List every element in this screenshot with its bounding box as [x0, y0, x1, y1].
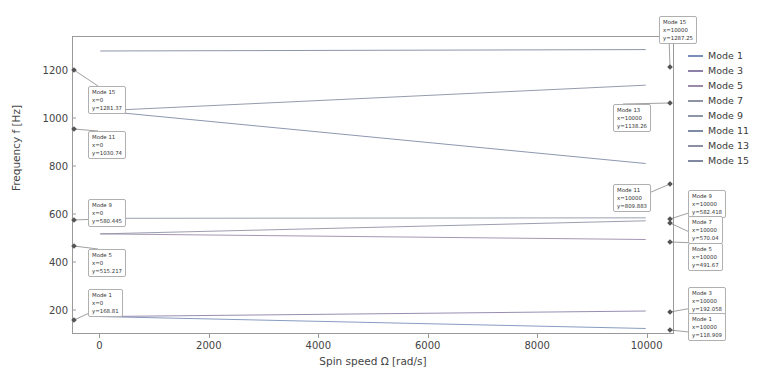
x-axis-tick-labels: 0200040006000800010000: [72, 334, 674, 354]
datatip-tip-mode7-right[interactable]: Mode 7x=10000y=570.04: [688, 216, 723, 244]
datatip-tip-mode5-left[interactable]: Mode 5x=0y=515.217: [88, 249, 126, 277]
datatip-tip-mode11-right[interactable]: Mode 11x=10000y=809.883: [613, 184, 651, 212]
datatip-mode: Mode 9: [692, 192, 722, 200]
series-line: [100, 85, 645, 111]
datatip-mode: Mode 5: [692, 245, 719, 253]
datatip-x: x=10000: [617, 114, 647, 122]
datatip-y: y=1138.26: [617, 122, 647, 130]
x-tick-label: 0: [96, 340, 102, 351]
datatip-y: y=570.04: [692, 234, 719, 242]
datatip-mode: Mode 11: [92, 133, 122, 141]
legend-swatch: [688, 145, 703, 147]
datatip-x: x=0: [92, 209, 122, 217]
legend-label: Mode 9: [708, 110, 743, 121]
datatip-tip-mode15-left[interactable]: Mode 15x=0y=1281.37: [88, 86, 126, 114]
x-tick-mark: [99, 334, 100, 338]
series-line: [100, 311, 645, 317]
legend-swatch: [688, 85, 703, 87]
datatip-tip-mode9-left[interactable]: Mode 9x=0y=580.445: [88, 199, 126, 227]
legend-item[interactable]: Mode 15: [688, 153, 764, 168]
datatip-y: y=515.217: [92, 267, 122, 275]
series-line: [100, 317, 645, 329]
datatip-x: x=10000: [692, 253, 719, 261]
legend-swatch: [688, 115, 703, 117]
legend-label: Mode 13: [708, 140, 749, 151]
legend-item[interactable]: Mode 7: [688, 93, 764, 108]
datatip-tip-mode1-left[interactable]: Mode 1x=0y=168.81: [88, 289, 123, 317]
y-tick-mark: [72, 165, 76, 166]
series-line: [100, 221, 645, 234]
legend-item[interactable]: Mode 5: [688, 78, 764, 93]
datatip-x: x=10000: [692, 323, 722, 331]
y-tick-label: 400: [49, 256, 68, 267]
datatip-y: y=168.81: [92, 307, 119, 315]
datatip-mode: Mode 11: [617, 186, 647, 194]
x-tick-label: 10000: [631, 340, 663, 351]
datatip-tip-mode11-left[interactable]: Mode 11x=0y=1030.74: [88, 131, 126, 159]
legend-label: Mode 5: [708, 80, 743, 91]
legend-swatch: [688, 70, 703, 72]
datatip-tip-mode9-right[interactable]: Mode 9x=10000y=582.418: [688, 190, 726, 218]
datatip-x: x=10000: [692, 200, 722, 208]
legend[interactable]: Mode 1Mode 3Mode 5Mode 7Mode 9Mode 11Mod…: [686, 45, 766, 171]
legend-swatch: [688, 160, 703, 162]
legend-swatch: [688, 100, 703, 102]
y-tick-label: 800: [49, 160, 68, 171]
datatip-y: y=1287.25: [663, 34, 693, 42]
datatip-tip-mode1-right[interactable]: Mode 1x=10000y=118.909: [688, 313, 726, 341]
series-line: [100, 234, 645, 240]
legend-label: Mode 7: [708, 95, 743, 106]
datatip-y: y=491.67: [692, 261, 719, 269]
datatip-mode: Mode 5: [92, 251, 122, 259]
y-tick-label: 200: [49, 304, 68, 315]
legend-item[interactable]: Mode 11: [688, 123, 764, 138]
series-lines: [73, 37, 673, 333]
y-axis-tick-labels: 20040060080010001200: [28, 36, 68, 334]
datatip-mode: Mode 3: [692, 289, 722, 297]
datatip-x: x=10000: [692, 226, 719, 234]
datatip-mode: Mode 7: [692, 218, 719, 226]
legend-item[interactable]: Mode 13: [688, 138, 764, 153]
datatip-y: y=1281.37: [92, 104, 122, 112]
datatip-y: y=118.909: [692, 331, 722, 339]
datatip-y: y=809.883: [617, 202, 647, 210]
legend-label: Mode 15: [708, 155, 749, 166]
datatip-tip-mode5-right[interactable]: Mode 5x=10000y=491.67: [688, 243, 723, 271]
x-tick-mark: [428, 334, 429, 338]
x-axis-label: Spin speed Ω [rad/s]: [72, 355, 674, 367]
legend-label: Mode 11: [708, 125, 749, 136]
datatip-mode: Mode 1: [92, 291, 119, 299]
x-tick-mark: [209, 334, 210, 338]
legend-item[interactable]: Mode 9: [688, 108, 764, 123]
datatip-x: x=10000: [617, 194, 647, 202]
datatip-mode: Mode 15: [92, 88, 122, 96]
datatip-x: x=0: [92, 96, 122, 104]
y-tick-label: 600: [49, 208, 68, 219]
legend-item[interactable]: Mode 3: [688, 63, 764, 78]
datatip-tip-mode15-right[interactable]: Mode 15x=10000y=1287.25: [659, 16, 697, 44]
datatip-mode: Mode 13: [617, 106, 647, 114]
series-line: [100, 50, 645, 51]
x-tick-label: 8000: [524, 340, 549, 351]
x-tick-label: 2000: [196, 340, 221, 351]
legend-swatch: [688, 55, 703, 57]
legend-item[interactable]: Mode 1: [688, 48, 764, 63]
y-tick-label: 1200: [43, 64, 68, 75]
datatip-x: x=10000: [663, 26, 693, 34]
datatip-tip-mode13-right[interactable]: Mode 13x=10000y=1138.26: [613, 104, 651, 132]
y-axis-label: Frequency f [Hz]: [10, 68, 22, 228]
datatip-mode: Mode 9: [92, 201, 122, 209]
datatip-mode: Mode 15: [663, 18, 693, 26]
campbell-diagram-figure: Frequency f [Hz] 20040060080010001200 02…: [0, 0, 769, 384]
datatip-x: x=10000: [692, 297, 722, 305]
legend-label: Mode 3: [708, 65, 743, 76]
series-line: [100, 111, 645, 164]
x-tick-label: 4000: [306, 340, 331, 351]
x-tick-label: 6000: [415, 340, 440, 351]
x-tick-mark: [537, 334, 538, 338]
datatip-mode: Mode 1: [692, 315, 722, 323]
y-tick-mark: [72, 117, 76, 118]
datatip-x: x=0: [92, 299, 119, 307]
legend-swatch: [688, 130, 703, 132]
datatip-tip-mode3-right[interactable]: Mode 3x=10000y=192.058: [688, 287, 726, 315]
